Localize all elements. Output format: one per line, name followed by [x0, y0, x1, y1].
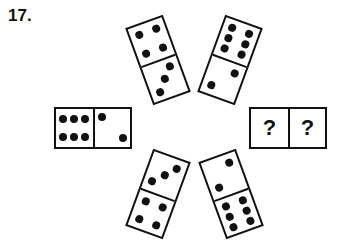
domino-unknown: ? ?: [249, 107, 327, 149]
pip: [172, 164, 182, 174]
pip: [165, 61, 175, 71]
domino-bottom-left: [125, 149, 191, 240]
pip: [81, 133, 89, 141]
pip: [160, 74, 170, 84]
pip: [119, 134, 127, 142]
pip: [221, 201, 231, 211]
question-mark: ?: [290, 115, 325, 141]
domino-bottom-right: [198, 149, 264, 240]
pip: [228, 222, 238, 232]
pip: [230, 68, 240, 78]
question-mark: ?: [251, 115, 288, 141]
domino-top-left: [125, 15, 191, 106]
domino-left: [54, 107, 132, 149]
domino-half-two: [93, 109, 130, 147]
pip: [59, 133, 67, 141]
pip: [134, 30, 144, 40]
pip: [224, 158, 234, 168]
pip: [214, 183, 224, 193]
pip: [206, 80, 216, 90]
pip: [147, 176, 157, 186]
pip: [223, 33, 233, 43]
pip: [98, 113, 106, 121]
question-number: 17.: [8, 6, 32, 26]
pip: [59, 115, 67, 123]
domino-half-unknown-right: ?: [288, 109, 325, 147]
pip: [155, 87, 165, 97]
pip: [240, 39, 250, 49]
pip: [160, 170, 170, 180]
pip: [242, 206, 252, 216]
domino-top-right: [197, 15, 263, 106]
pip: [238, 195, 248, 205]
domino-half-six: [56, 109, 93, 147]
domino-half-unknown-left: ?: [251, 109, 288, 147]
pip: [219, 43, 229, 53]
pip: [70, 115, 78, 123]
pip: [70, 133, 78, 141]
pip: [141, 49, 151, 59]
pip: [245, 216, 255, 226]
pip: [151, 24, 161, 34]
pip: [81, 115, 89, 123]
pip: [151, 220, 161, 230]
pip: [134, 214, 144, 224]
pip: [158, 42, 168, 52]
pip: [141, 196, 151, 206]
pip: [236, 49, 246, 59]
pip: [227, 23, 237, 33]
pip: [244, 29, 254, 39]
pip: [158, 202, 168, 212]
pip: [225, 212, 235, 222]
